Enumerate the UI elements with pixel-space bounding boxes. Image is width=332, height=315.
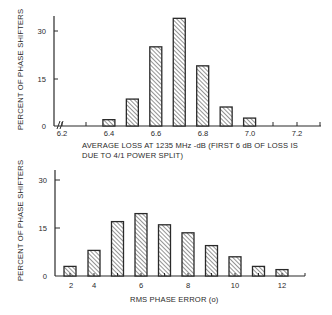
y-tick-label: 0 (43, 272, 47, 281)
x-tick-label: 7.0 (245, 129, 256, 138)
x-tick-label: 6.8 (198, 129, 209, 138)
histogram-bar (173, 18, 185, 126)
bottom-bars (64, 214, 288, 276)
top-bars (103, 18, 256, 126)
histogram-bar (103, 120, 115, 126)
figure: PERCENT OF PHASE SHIFTERS 01530 6.26.46.… (0, 0, 332, 315)
top-x-axis-title-line2: DUE TO 4/1 POWER SPLIT) (82, 151, 183, 160)
histogram-bar (88, 250, 100, 276)
top-x-axis-title-line1: AVERAGE LOSS AT 1235 MHz -dB (FIRST 6 dB… (82, 141, 298, 150)
y-tick-label: 15 (39, 224, 47, 233)
histogram-bar (135, 214, 147, 276)
x-tick-label: 7.2 (292, 129, 303, 138)
x-tick-label: 2 (69, 281, 73, 290)
x-tick-label: 8 (186, 281, 190, 290)
bottom-y-ticks: 01530 (39, 176, 60, 281)
top-y-axis-title: PERCENT OF PHASE SHIFTERS (16, 9, 25, 130)
y-tick-label: 15 (38, 75, 46, 84)
histogram-bar (220, 107, 232, 126)
y-tick-label: 30 (38, 27, 46, 36)
histogram-bar (159, 225, 171, 276)
x-tick-label: 10 (231, 281, 239, 290)
y-tick-label: 0 (42, 122, 46, 131)
top-x-ticks: 6.26.46.66.87.07.2 (57, 122, 320, 138)
bottom-chart: PERCENT OF PHASE SHIFTERS 01530 24681012… (16, 160, 305, 304)
x-tick-label: 4 (92, 281, 96, 290)
histogram-bar (197, 66, 209, 126)
top-chart: PERCENT OF PHASE SHIFTERS 01530 6.26.46.… (16, 9, 321, 160)
histogram-bar (112, 222, 124, 276)
bottom-y-axis-title: PERCENT OF PHASE SHIFTERS (16, 160, 25, 281)
bottom-x-axis-title: RMS PHASE ERROR (o) (130, 295, 219, 304)
histogram-bar (206, 246, 218, 276)
bottom-x-ticks: 24681012 (69, 281, 286, 290)
x-tick-label: 6.4 (104, 129, 115, 138)
x-tick-label: 12 (278, 281, 286, 290)
histogram-bar (126, 99, 138, 126)
y-tick-label: 30 (39, 176, 47, 185)
x-tick-label: 6.6 (151, 129, 162, 138)
histogram-bar (182, 233, 194, 276)
histogram-bar (244, 118, 256, 126)
histogram-bar (150, 47, 162, 126)
x-tick-label: 6 (139, 281, 143, 290)
top-y-ticks: 01530 (38, 27, 58, 131)
x-tick-label: 6.2 (57, 129, 68, 138)
